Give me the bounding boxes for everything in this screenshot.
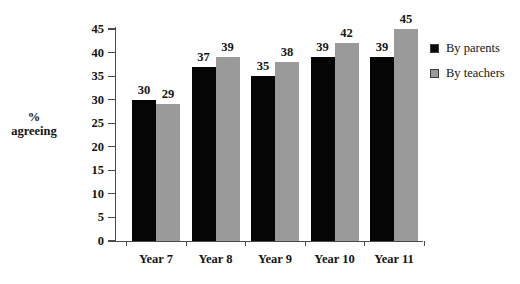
x-axis-tick-mark <box>245 241 246 246</box>
legend-swatch-icon-teachers <box>430 69 439 78</box>
bar-value-label: 39 <box>364 41 400 54</box>
y-axis-tick-mark <box>108 146 115 147</box>
y-axis-tick-mark <box>108 28 115 29</box>
bar-year-11-by-parents[interactable] <box>370 57 394 241</box>
bar-value-label: 29 <box>150 88 186 101</box>
bar-value-label: 45 <box>388 13 424 26</box>
bar-year-7-by-teachers[interactable] <box>156 104 180 241</box>
x-axis-tick-mark <box>364 241 365 246</box>
y-axis-tick-mark <box>108 123 115 124</box>
x-axis-category-label: Year 11 <box>354 253 434 266</box>
y-axis-title-line-2: agreeing <box>6 124 62 138</box>
y-axis-tick-label: 40 <box>64 47 104 60</box>
y-axis-title: % agreeing <box>6 110 62 139</box>
bar-value-label: 35 <box>245 60 281 73</box>
y-axis-tick-mark <box>108 52 115 53</box>
chart-legend: By parents By teachers <box>430 42 518 92</box>
bar-year-9-by-parents[interactable] <box>251 76 275 241</box>
y-axis-tick-label: 45 <box>64 23 104 36</box>
y-axis-tick-mark <box>108 170 115 171</box>
x-axis-tick-mark <box>305 241 306 246</box>
y-axis-tick-mark <box>108 240 115 241</box>
y-axis-title-line-1: % <box>6 110 62 124</box>
bar-value-label: 42 <box>329 27 365 40</box>
bar-year-9-by-teachers[interactable] <box>275 62 299 241</box>
bar-year-8-by-teachers[interactable] <box>216 57 240 241</box>
y-axis-tick-label: 20 <box>64 141 104 154</box>
bar-year-11-by-teachers[interactable] <box>394 29 418 241</box>
y-axis-tick-mark <box>108 76 115 77</box>
bar-chart: % agreeing 051015202530354045 Year 7Year… <box>0 0 520 284</box>
y-axis-tick-label: 10 <box>64 188 104 201</box>
bar-year-10-by-teachers[interactable] <box>335 43 359 241</box>
x-axis-tick-mark <box>186 241 187 246</box>
y-axis-tick-mark <box>108 193 115 194</box>
bar-value-label: 38 <box>269 46 305 59</box>
y-axis-tick-mark <box>108 99 115 100</box>
bar-year-8-by-parents[interactable] <box>192 67 216 241</box>
bar-value-label: 39 <box>305 41 341 54</box>
y-axis-tick-label: 0 <box>64 235 104 248</box>
legend-swatch-icon-parents <box>430 44 439 53</box>
y-axis-tick-label: 5 <box>64 211 104 224</box>
legend-label-teachers: By teachers <box>446 67 505 80</box>
bar-year-7-by-parents[interactable] <box>132 100 156 241</box>
legend-item-teachers[interactable]: By teachers <box>430 67 518 79</box>
y-axis-tick-label: 30 <box>64 94 104 107</box>
legend-label-parents: By parents <box>446 42 500 55</box>
legend-item-parents[interactable]: By parents <box>430 42 518 54</box>
x-axis-tick-mark <box>424 241 425 246</box>
x-axis-tick-mark <box>126 241 127 246</box>
y-axis-tick-mark <box>108 217 115 218</box>
y-axis-tick-label: 35 <box>64 70 104 83</box>
y-axis-tick-label: 15 <box>64 164 104 177</box>
bar-year-10-by-parents[interactable] <box>311 57 335 241</box>
bar-value-label: 39 <box>210 41 246 54</box>
y-axis-tick-label: 25 <box>64 117 104 130</box>
